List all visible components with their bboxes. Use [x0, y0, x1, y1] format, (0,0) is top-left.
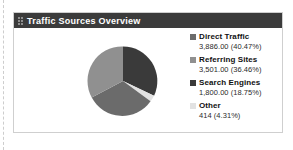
legend-item-head: Direct Traffic	[190, 32, 282, 42]
legend-item-value: 1,800.00 (18.75%)	[199, 88, 282, 98]
pie-chart	[87, 45, 159, 117]
legend-item-head: Other	[190, 101, 282, 111]
legend-swatch-icon	[190, 34, 196, 40]
legend-item-head: Referring Sites	[190, 55, 282, 65]
pie-chart-area	[14, 28, 189, 132]
widget-body: Direct Traffic 3,886.00 (40.47%) Referri…	[14, 28, 282, 132]
legend-item-value: 3,886.00 (40.47%)	[199, 42, 282, 52]
legend-item-value: 3,501.00 (36.46%)	[199, 65, 282, 75]
legend-item-head: Search Engines	[190, 78, 282, 88]
legend-item-label: Search Engines	[199, 78, 260, 88]
chart-legend: Direct Traffic 3,886.00 (40.47%) Referri…	[189, 28, 282, 132]
drag-handle-icon[interactable]	[18, 17, 23, 25]
legend-item-value: 414 (4.31%)	[199, 111, 282, 121]
legend-item[interactable]: Referring Sites 3,501.00 (36.46%)	[189, 55, 282, 75]
legend-swatch-icon	[190, 80, 196, 86]
legend-item-label: Other	[199, 101, 221, 111]
legend-item[interactable]: Direct Traffic 3,886.00 (40.47%)	[189, 32, 282, 52]
traffic-sources-widget: Traffic Sources Overview Direct Traffic …	[13, 12, 283, 133]
legend-swatch-icon	[190, 103, 196, 109]
legend-swatch-icon	[190, 57, 196, 63]
legend-item[interactable]: Search Engines 1,800.00 (18.75%)	[189, 78, 282, 98]
legend-item-label: Referring Sites	[199, 55, 257, 65]
widget-titlebar[interactable]: Traffic Sources Overview	[14, 13, 282, 28]
widget-title: Traffic Sources Overview	[27, 16, 141, 26]
canvas-left-guide-rule	[3, 0, 4, 150]
legend-item[interactable]: Other 414 (4.31%)	[189, 101, 282, 121]
legend-item-label: Direct Traffic	[199, 32, 249, 42]
